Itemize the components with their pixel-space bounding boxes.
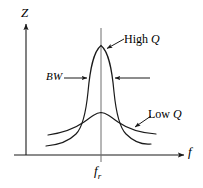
bandwidth-label: BW bbox=[46, 71, 62, 82]
high-q-leader-arrow bbox=[107, 39, 124, 49]
high-q-label: High Q bbox=[124, 33, 160, 45]
resonant-frequency-label: fr bbox=[94, 164, 101, 181]
low-q-label: Low Q bbox=[148, 108, 182, 120]
high-q-label-text: High bbox=[124, 32, 151, 46]
figure-canvas bbox=[0, 0, 203, 188]
resonance-curve-figure: Z f fr BW High Q Low Q bbox=[0, 0, 203, 188]
high-q-label-symbol: Q bbox=[151, 32, 160, 46]
low-q-label-text: Low bbox=[148, 107, 173, 121]
low-q-label-symbol: Q bbox=[173, 107, 182, 121]
y-axis-label: Z bbox=[21, 6, 28, 19]
x-axis-label: f bbox=[188, 145, 192, 158]
resonant-frequency-subscript: r bbox=[98, 171, 102, 181]
